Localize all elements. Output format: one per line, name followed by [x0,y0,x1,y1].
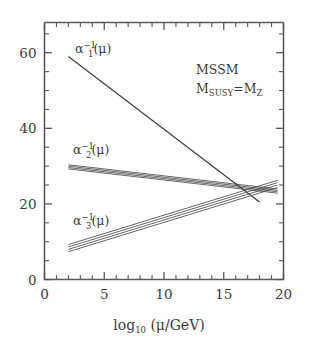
alpha3-arg: (μ) [91,213,109,228]
curve-label-alpha2: α−12(μ) [73,141,109,160]
curve-label-alpha1: α−11(μ) [75,40,111,59]
band-line-alpha_2^-1(mu) [68,168,277,192]
y-tick-label: 60 [19,45,36,61]
x-tick-label: 20 [275,286,292,302]
susy-sub2: Z [257,88,263,98]
alpha2-arg: (μ) [91,142,109,157]
y-tick-label: 40 [19,120,36,136]
x-tick-label: 0 [40,286,49,302]
x-axis-title-main: log [113,317,135,333]
x-tick-label: 15 [215,286,232,302]
curve-label-alpha3: α−13(μ) [73,212,109,231]
x-tick-label: 10 [155,286,172,302]
susy-prefix: M [196,81,209,96]
y-tick-label: 20 [19,196,36,212]
x-axis-title-sub: 10 [135,325,146,335]
x-axis-title: log10 (μ/GeV) [113,317,204,335]
susy-sub: SUSY [209,88,234,98]
alpha1-arg: (μ) [93,41,111,56]
band-line-alpha_2^-1(mu) [68,166,277,190]
y-tick-label: 0 [28,272,37,288]
svg-text:log10 (μ/GeV): log10 (μ/GeV) [113,317,204,335]
band-line-alpha_2^-1(mu) [68,165,277,189]
svg-text:α−12(μ): α−12(μ) [73,141,109,160]
x-axis-title-arg: (μ/GeV) [150,317,204,333]
svg-text:α−11(μ): α−11(μ) [75,40,111,59]
model-annotation: MSSM MSUSY=MZ [196,62,263,98]
figure-panel: 051015200204060 log10 (μ/GeV) α−11(μ) α−… [0,0,319,343]
x-tick-label: 5 [100,286,109,302]
susy-scale-label: MSUSY=MZ [196,81,263,98]
model-label: MSSM [196,62,239,77]
coupling-unification-chart: 051015200204060 log10 (μ/GeV) α−11(μ) α−… [0,0,319,343]
susy-eq: =M [233,81,256,96]
svg-text:α−13(μ): α−13(μ) [73,212,109,231]
